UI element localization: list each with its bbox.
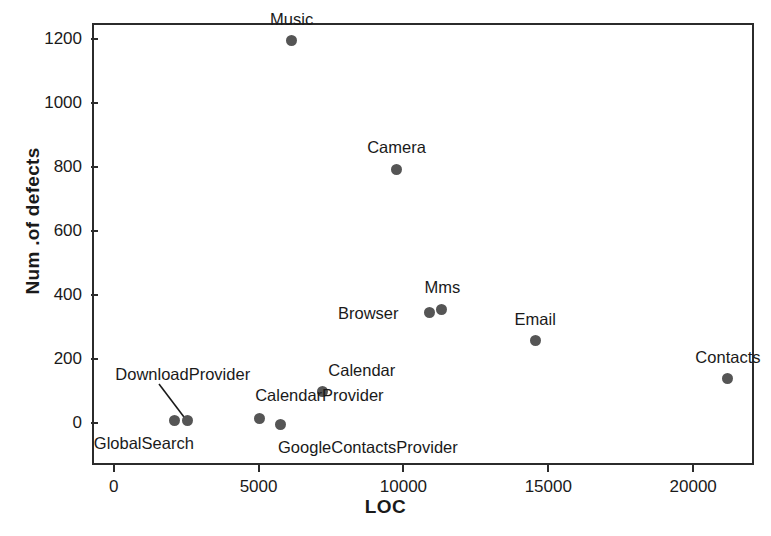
y-axis-tick-label: 400 [6, 286, 82, 303]
data-point-label: Email [515, 311, 556, 328]
plot-frame [92, 23, 754, 465]
x-axis-tick-label: 20000 [643, 478, 743, 495]
data-point-label: Music [270, 11, 313, 28]
y-axis-tick-label: 600 [6, 222, 82, 239]
x-axis-tick [258, 464, 260, 472]
x-axis-tick-label: 0 [64, 478, 164, 495]
y-axis-title: Num .of defects [22, 96, 44, 346]
x-axis-tick-label: 15000 [498, 478, 598, 495]
y-axis-tick [91, 38, 98, 40]
x-axis-tick-label: 10000 [353, 478, 453, 495]
y-axis-tick [91, 294, 98, 296]
data-point[interactable] [254, 413, 265, 424]
data-point[interactable] [275, 419, 286, 430]
data-point-label: CalendarProvider [255, 387, 383, 404]
data-point-label: GlobalSearch [94, 435, 194, 452]
x-axis-tick [547, 464, 549, 472]
data-point-label: Mms [425, 279, 461, 296]
y-axis-tick-label: 0 [6, 414, 82, 431]
data-point-label: Calendar [328, 362, 395, 379]
x-axis-tick-label: 5000 [209, 478, 309, 495]
y-axis-tick-label: 1000 [6, 94, 82, 111]
data-point[interactable] [391, 164, 402, 175]
y-axis-tick-label: 1200 [6, 30, 82, 47]
y-axis-tick-label: 800 [6, 158, 82, 175]
data-point[interactable] [530, 335, 541, 346]
data-point-label: Contacts [695, 349, 760, 366]
data-point-label: Browser [338, 305, 399, 322]
scatter-chart-figure: 020040060080010001200 050001000015000200… [0, 0, 771, 536]
x-axis-title: LOC [0, 496, 771, 518]
data-point-label: GoogleContactsProvider [278, 439, 458, 456]
y-axis-tick [91, 422, 98, 424]
y-axis-tick [91, 166, 98, 168]
data-point-label: DownloadProvider [115, 366, 250, 383]
data-point[interactable] [436, 304, 447, 315]
y-axis-tick [91, 102, 98, 104]
y-axis-tick [91, 358, 98, 360]
x-axis-tick [113, 464, 115, 472]
y-axis-tick-label: 200 [6, 350, 82, 367]
x-axis-tick [402, 464, 404, 472]
x-axis-tick [692, 464, 694, 472]
y-axis-tick [91, 230, 98, 232]
data-point-label: Camera [367, 139, 426, 156]
